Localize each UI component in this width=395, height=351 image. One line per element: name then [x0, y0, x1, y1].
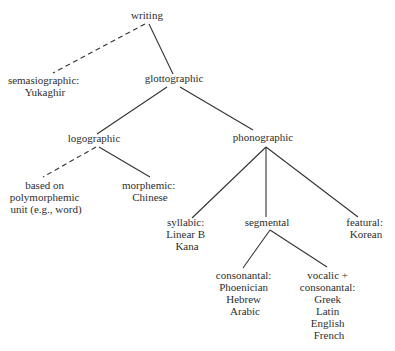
node-label: glottographic — [145, 72, 204, 84]
node-example: Greek — [314, 293, 341, 305]
node-example: French — [314, 329, 345, 341]
node-label: consonantal: — [300, 281, 356, 293]
node-writing: writing — [131, 9, 163, 21]
node-syllabic: syllabic: Linear B Kana — [166, 216, 208, 252]
edge-glottographic-logographic — [97, 87, 167, 134]
edge-phonographic-featural — [266, 147, 358, 217]
edge-phonographic-syllabic — [192, 147, 266, 218]
node-label: based on — [25, 179, 64, 191]
edge-writing-semasiographic — [53, 24, 145, 73]
node-label: writing — [131, 9, 163, 21]
node-example: Arabic — [230, 305, 260, 317]
node-example: Yukaghir — [25, 86, 66, 98]
node-label: phonographic — [233, 131, 294, 143]
node-example: Kana — [175, 240, 198, 252]
edge-segmental-vocalic-consonantal — [270, 230, 327, 267]
node-example: Korean — [350, 228, 383, 240]
node-polymorphemic: based on polymorphemic unit (e.g., word) — [10, 179, 82, 216]
edge-writing-glottographic — [149, 24, 173, 74]
node-label: syllabic: — [167, 216, 204, 228]
node-logographic: logographic — [68, 132, 121, 144]
node-phonographic: phonographic — [233, 131, 294, 143]
node-label: vocalic + — [307, 269, 348, 281]
node-morphemic: morphemic: Chinese — [122, 179, 178, 203]
node-vocalic-consonantal: vocalic + consonantal: Greek Latin Engli… — [300, 269, 358, 341]
node-example: Latin — [316, 305, 340, 317]
node-label: polymorphemic — [10, 191, 80, 203]
node-semasiographic: semasiographic: Yukaghir — [8, 74, 82, 98]
node-label: morphemic: — [122, 179, 175, 191]
node-featural: featural: Korean — [346, 216, 385, 240]
node-label: logographic — [68, 132, 121, 144]
node-label: segmental — [245, 216, 290, 228]
edge-segmental-consonantal — [243, 230, 270, 268]
node-consonantal: consonantal: Phoenician Hebrew Arabic — [216, 269, 274, 317]
tree-nodes: writing semasiographic: Yukaghir glottog… — [8, 9, 386, 341]
edge-logographic-polymorphemic — [43, 147, 96, 177]
node-label: featural: — [346, 216, 383, 228]
edge-logographic-morphemic — [99, 147, 150, 177]
edge-glottographic-phonographic — [180, 87, 253, 130]
node-example: Chinese — [132, 191, 168, 203]
node-segmental: segmental — [245, 216, 290, 228]
node-label: consonantal: — [216, 269, 272, 281]
node-example: English — [311, 317, 345, 329]
node-example: Hebrew — [226, 293, 261, 305]
node-example: Linear B — [166, 228, 205, 240]
node-label: unit (e.g., word) — [10, 203, 82, 216]
writing-systems-tree: writing semasiographic: Yukaghir glottog… — [0, 0, 395, 351]
node-glottographic: glottographic — [145, 72, 204, 84]
node-label: semasiographic: — [8, 74, 79, 86]
node-example: Phoenician — [219, 281, 268, 293]
